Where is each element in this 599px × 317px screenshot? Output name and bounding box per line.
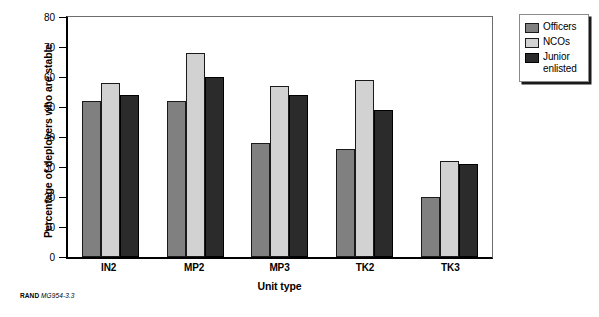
bar-in2-ncos (101, 83, 120, 257)
legend-swatch-junior-enlisted (525, 53, 539, 63)
y-tick-mark: 30 (59, 167, 68, 168)
x-tick-label-mp2: MP2 (151, 262, 236, 273)
bars-layer (68, 17, 492, 257)
bar-group-mp3 (238, 17, 323, 257)
bar-tk2-officers (336, 149, 355, 257)
y-tick-mark: 50 (59, 107, 68, 108)
y-tick-label: 50 (44, 101, 55, 115)
bar-mp3-ncos (270, 86, 289, 257)
caption-figure-id: MG954-3.3 (41, 292, 74, 299)
bar-tk3-junior-enlisted (459, 164, 478, 257)
legend-item-junior-enlisted: Juniorenlisted (525, 51, 583, 75)
bar-group-tk2 (322, 17, 407, 257)
bar-in2-junior-enlisted (120, 95, 139, 257)
bar-mp3-officers (251, 143, 270, 257)
y-tick-mark: 40 (59, 137, 68, 138)
chart-figure: Percentage of deployers who are stable 0… (0, 0, 599, 317)
bar-group-tk3 (407, 17, 492, 257)
y-tick-label: 10 (44, 221, 55, 235)
bar-mp2-ncos (186, 53, 205, 257)
figure-caption: RAND MG954-3.3 (20, 292, 75, 299)
bar-tk2-ncos (355, 80, 374, 257)
x-tick-label-tk2: TK2 (322, 262, 407, 273)
y-tick-mark: 70 (59, 47, 68, 48)
legend-item-officers: Officers (525, 21, 583, 33)
legend-label: Juniorenlisted (543, 51, 577, 75)
y-tick-label: 80 (44, 11, 55, 25)
legend-swatch-ncos (525, 38, 539, 48)
bar-tk3-officers (421, 197, 440, 257)
plot-area: 01020304050607080 (66, 16, 493, 259)
bar-tk2-junior-enlisted (374, 110, 393, 257)
y-tick-label: 70 (44, 41, 55, 55)
x-axis-tick-labels: IN2MP2MP3TK2TK3 (66, 262, 493, 273)
plot-inner: 01020304050607080 (68, 17, 492, 257)
legend-label: Officers (543, 21, 576, 33)
y-tick-mark: 0 (59, 257, 68, 258)
y-tick-label: 20 (44, 191, 55, 205)
bar-tk3-ncos (440, 161, 459, 257)
y-tick-label: 40 (44, 131, 55, 145)
bar-mp2-junior-enlisted (205, 77, 224, 257)
x-axis-title: Unit type (66, 280, 493, 292)
y-tick-mark: 20 (59, 197, 68, 198)
x-tick-label-in2: IN2 (66, 262, 151, 273)
bar-group-in2 (68, 17, 153, 257)
y-tick-label: 30 (44, 161, 55, 175)
y-tick-mark: 80 (59, 17, 68, 18)
legend-item-ncos: NCOs (525, 36, 583, 48)
y-tick-label: 0 (49, 251, 55, 265)
caption-rand-label: RAND (20, 292, 39, 299)
bar-group-mp2 (153, 17, 238, 257)
chart-legend: OfficersNCOsJuniorenlisted (519, 14, 589, 82)
x-tick-label-tk3: TK3 (408, 262, 493, 273)
legend-label: NCOs (543, 36, 570, 48)
x-tick-label-mp3: MP3 (237, 262, 322, 273)
y-tick-mark: 10 (59, 227, 68, 228)
y-tick-label: 60 (44, 71, 55, 85)
bar-mp2-officers (167, 101, 186, 257)
legend-swatch-officers (525, 23, 539, 33)
bar-in2-officers (82, 101, 101, 257)
y-tick-mark: 60 (59, 77, 68, 78)
bar-mp3-junior-enlisted (289, 95, 308, 257)
